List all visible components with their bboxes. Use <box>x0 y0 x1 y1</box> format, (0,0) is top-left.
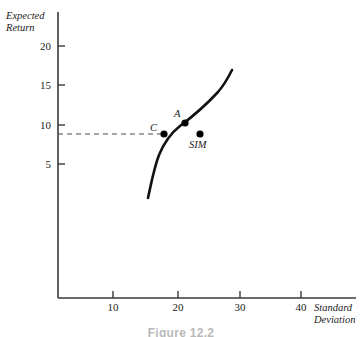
y-axis-title-line1: Expected <box>5 10 45 21</box>
data-point-label-sim: SIM <box>189 139 208 150</box>
x-tick-label-10: 10 <box>108 301 120 313</box>
x-axis-title-line2: Deviation <box>313 314 355 325</box>
x-tick-label-40: 40 <box>296 301 308 313</box>
y-tick-label-10: 10 <box>40 119 52 131</box>
data-point-label-c: C <box>150 122 158 133</box>
data-point-sim <box>196 130 203 137</box>
y-axis-title-line2: Return <box>5 22 35 33</box>
y-axis-ticks <box>58 46 65 164</box>
y-tick-label-15: 15 <box>40 79 52 91</box>
y-tick-label-5: 5 <box>46 158 52 170</box>
x-axis-title-line1: Standard <box>314 302 353 313</box>
data-point-a <box>181 119 188 126</box>
x-axis-ticks <box>113 291 301 298</box>
data-point-c <box>160 130 167 137</box>
figure-caption: Figure 12.2 <box>0 326 362 337</box>
data-point-label-a: A <box>173 108 181 119</box>
y-tick-label-20: 20 <box>40 40 52 52</box>
x-tick-label-20: 20 <box>173 301 185 313</box>
x-tick-label-30: 30 <box>235 301 247 313</box>
